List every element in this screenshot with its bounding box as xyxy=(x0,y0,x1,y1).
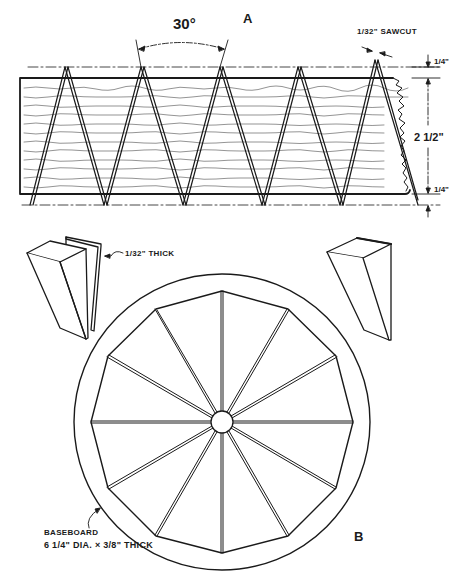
board-height-label: 2 1/2" xyxy=(414,130,444,145)
angle-dimension xyxy=(136,40,228,67)
left-wedge xyxy=(27,237,101,339)
slip-pointer xyxy=(105,252,123,258)
top-margin-label: 1/4" xyxy=(434,58,449,66)
baseboard-label: BASEBOARD xyxy=(44,529,98,537)
slip-thickness-label: 1/32" THICK xyxy=(125,250,174,258)
panel-a-label: A xyxy=(243,12,252,25)
baseboard-pointer xyxy=(88,508,100,528)
diagram-canvas xyxy=(0,0,465,580)
center-hub xyxy=(211,411,233,433)
angle-label: 30° xyxy=(173,16,196,31)
bottom-margin-label: 1/4" xyxy=(434,186,449,194)
panel-b-label: B xyxy=(354,530,363,543)
right-wedge xyxy=(327,238,391,340)
sawcut-pointer xyxy=(362,47,392,57)
baseboard-dimensions: 6 1/4" DIA. × 3/8" THICK xyxy=(44,541,153,550)
sawcut-label: 1/32" SAWCUT xyxy=(357,28,417,36)
panel-b-baseboard xyxy=(74,274,370,570)
